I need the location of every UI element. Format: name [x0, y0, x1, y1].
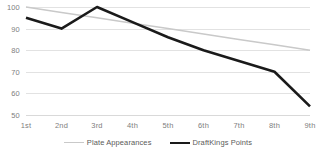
plot-area	[26, 7, 310, 115]
x-tick-label: 1st	[21, 121, 32, 130]
series-lines	[26, 7, 310, 115]
x-tick-label: 3rd	[91, 121, 102, 130]
legend-swatch-icon	[64, 142, 84, 143]
x-tick-label: 7th	[233, 121, 244, 130]
legend-item-draftkings-points[interactable]: DraftKings Points	[170, 138, 253, 147]
y-tick-label: 90	[11, 24, 20, 33]
x-tick-label: 9th	[304, 121, 315, 130]
legend-label: Plate Appearances	[87, 138, 152, 147]
series-line-draftkings-points	[26, 7, 310, 106]
y-tick-label: 100	[7, 3, 20, 12]
series-line-plate-appearances	[26, 7, 310, 50]
chart-legend: Plate AppearancesDraftKings Points	[0, 138, 316, 147]
line-chart: 1009080706050 1st2nd3rd4th5th6th7th8th9t…	[0, 0, 316, 157]
y-tick-label: 70	[11, 67, 20, 76]
x-axis-labels: 1st2nd3rd4th5th6th7th8th9th	[26, 119, 310, 133]
legend-label: DraftKings Points	[193, 138, 253, 147]
y-tick-label: 50	[11, 111, 20, 120]
x-tick-label: 6th	[198, 121, 209, 130]
gridline-50	[26, 115, 310, 116]
x-tick-label: 4th	[127, 121, 138, 130]
legend-item-plate-appearances[interactable]: Plate Appearances	[64, 138, 152, 147]
x-tick-label: 8th	[269, 121, 280, 130]
legend-swatch-icon	[170, 142, 190, 144]
y-tick-label: 80	[11, 46, 20, 55]
x-tick-label: 5th	[162, 121, 173, 130]
y-tick-label: 60	[11, 89, 20, 98]
x-tick-label: 2nd	[55, 121, 68, 130]
y-axis-labels: 1009080706050	[0, 0, 24, 122]
